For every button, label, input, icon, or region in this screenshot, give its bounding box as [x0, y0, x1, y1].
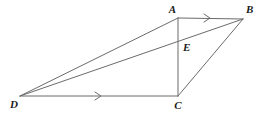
vertex-label-B: B — [245, 3, 253, 15]
vertex-labels-group: A B C D E — [9, 3, 253, 111]
segment-DA — [20, 18, 178, 96]
parallel-marks-group — [95, 14, 210, 100]
geometry-figure: A B C D E — [0, 0, 260, 114]
segment-AB — [178, 18, 243, 19]
vertex-label-A: A — [168, 3, 176, 15]
vertex-label-E: E — [182, 41, 190, 53]
geometry-canvas: A B C D E — [0, 0, 260, 114]
vertex-label-D: D — [9, 98, 18, 110]
segments-group — [20, 18, 243, 96]
vertex-label-C: C — [174, 99, 182, 111]
segment-DB — [20, 19, 243, 96]
